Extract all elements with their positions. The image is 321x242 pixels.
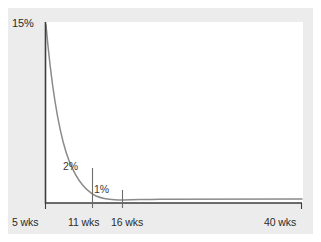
decay-curve	[46, 25, 302, 200]
y-axis-top-label: 15%	[12, 17, 34, 29]
x-axis-label-11-wks: 11 wks	[68, 216, 99, 228]
x-axis-label-16-wks: 16 wks	[111, 216, 143, 228]
annotation-2-percent: 2%	[63, 160, 78, 172]
x-axis-label-40-wks: 40 wks	[264, 216, 296, 228]
x-axis-label-5-wks: 5 wks	[12, 216, 38, 228]
annotation-1-percent: 1%	[94, 183, 109, 195]
chart-figure: 15% 5 wks 11 wks 16 wks 40 wks 2% 1%	[0, 0, 321, 242]
plot-canvas	[0, 0, 321, 242]
